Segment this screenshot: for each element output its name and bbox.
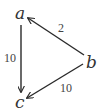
graph-diagram: a b c 2 10 10	[0, 0, 103, 112]
node-a: a	[15, 3, 25, 23]
edge-b-to-c	[27, 64, 83, 98]
node-c: c	[15, 92, 25, 112]
weight-b-to-a: 2	[58, 21, 64, 35]
edge-b-to-a	[28, 18, 84, 55]
weight-a-to-c: 10	[4, 51, 16, 65]
weight-b-to-c: 10	[60, 81, 72, 95]
node-b: b	[86, 52, 97, 72]
